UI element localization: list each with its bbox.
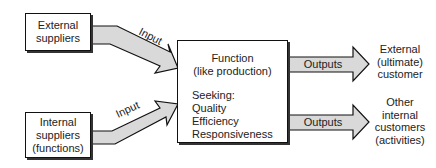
function-box: Function (like production) Seeking: Qual…	[177, 40, 288, 143]
function-title-line1: Function	[178, 52, 287, 65]
input-arrow-external	[90, 26, 178, 73]
internal-customers-line1: Other	[366, 96, 434, 109]
goal-quality: Quality	[192, 102, 287, 115]
external-customer-line1: External	[366, 43, 434, 56]
internal-suppliers-line1: Internal	[40, 116, 77, 129]
external-suppliers-line1: External	[38, 19, 78, 32]
internal-suppliers-line3: (functions)	[32, 142, 83, 155]
internal-suppliers-box: Internal suppliers (functions)	[25, 112, 91, 158]
external-customer-label: External (ultimate) customer	[366, 43, 434, 81]
external-suppliers-line2: suppliers	[36, 32, 80, 45]
internal-customers-line4: (activities)	[366, 134, 434, 147]
output-label-internal: Outputs	[298, 116, 348, 129]
goal-efficiency: Efficiency	[192, 115, 287, 128]
external-customer-line2: (ultimate)	[366, 56, 434, 69]
external-customer-line3: customer	[366, 68, 434, 81]
output-label-external: Outputs	[298, 58, 348, 71]
seeking-list: Seeking: Quality Efficiency Responsivene…	[192, 89, 287, 141]
internal-suppliers-line2: suppliers	[36, 129, 80, 142]
internal-customers-label: Other internal customers (activities)	[366, 96, 434, 146]
internal-customers-line2: internal	[366, 109, 434, 122]
input-label-internal: Input	[114, 99, 141, 120]
function-title: Function (like production)	[178, 52, 287, 78]
seeking-label: Seeking:	[192, 89, 287, 102]
function-title-line2: (like production)	[178, 65, 287, 78]
internal-customers-line3: customers	[366, 121, 434, 134]
goal-responsiveness: Responsiveness	[192, 128, 287, 141]
external-suppliers-box: External suppliers	[25, 13, 91, 51]
